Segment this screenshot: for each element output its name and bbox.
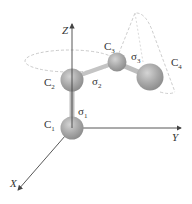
z-axis-label: Z bbox=[62, 24, 69, 36]
diagram-canvas: Z Y X C1 C2 C3 C4 σ1 σ2 σ3 bbox=[0, 0, 192, 204]
label-sigma1: σ1 bbox=[78, 105, 88, 120]
label-sigma2: σ2 bbox=[92, 75, 102, 90]
atom-c4 bbox=[137, 64, 164, 91]
label-c3: C3 bbox=[104, 40, 115, 55]
label-c1: C1 bbox=[44, 118, 55, 133]
label-c2: C2 bbox=[44, 76, 55, 91]
atom-c3 bbox=[108, 53, 127, 72]
y-axis-label: Y bbox=[172, 131, 180, 143]
label-sigma3: σ3 bbox=[131, 50, 141, 65]
label-c4: C4 bbox=[171, 56, 182, 71]
x-axis-label: X bbox=[9, 177, 18, 189]
x-axis bbox=[18, 128, 72, 190]
